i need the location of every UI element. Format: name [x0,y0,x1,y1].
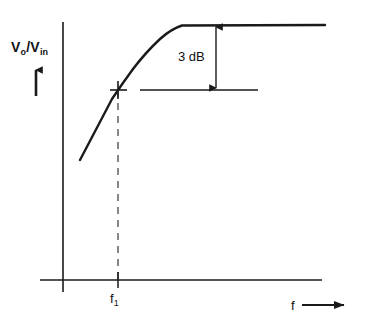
x-axis-label: f [291,299,295,312]
y-axis-label: Vo/Vin [11,40,48,54]
db-drop-label: 3 dB [178,50,205,63]
y-axis-label-sub-o: o [21,47,27,57]
y-axis-label-v: V [11,39,21,55]
f1-label-sub-1: 1 [114,298,119,308]
response-curve [80,25,325,160]
y-axis-label-sub-in: in [40,47,48,57]
y-axis-label-slash-v: /V [26,39,40,55]
frequency-response-figure: Vo/Vin 3 dB f1 f [0,0,365,335]
x-axis-tick-label-f1: f1 [110,292,119,305]
